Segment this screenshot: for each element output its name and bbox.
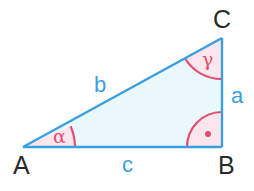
vertex-c-label: C <box>213 5 231 33</box>
vertex-a-label: A <box>13 151 30 179</box>
vertex-b-label: B <box>218 151 235 179</box>
side-a-label: a <box>231 83 244 108</box>
right-angle-dot <box>205 131 211 137</box>
angle-alpha-label: α <box>53 125 66 147</box>
side-c-label: c <box>122 152 133 177</box>
angle-gamma-label: γ <box>202 48 213 70</box>
right-triangle-diagram: A B C b a c α γ <box>0 0 254 191</box>
side-b-label: b <box>94 72 106 97</box>
